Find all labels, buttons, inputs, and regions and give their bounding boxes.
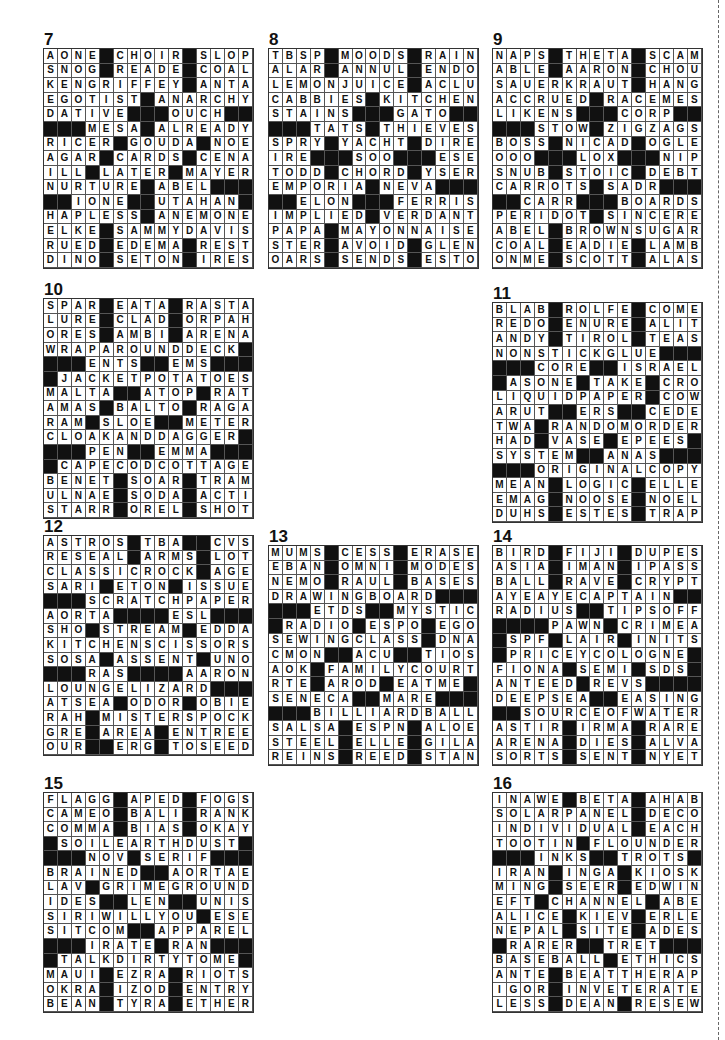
letter-cell: O (674, 391, 688, 406)
black-square (394, 648, 408, 663)
letter-cell: R (549, 78, 563, 93)
letter-cell: T (128, 166, 142, 181)
black-square (211, 445, 225, 460)
black-square (183, 822, 197, 837)
letter-cell: A (521, 793, 535, 808)
letter-cell: S (114, 210, 128, 225)
letter-cell: S (688, 954, 702, 969)
letter-cell: P (58, 299, 72, 314)
black-square (100, 997, 114, 1012)
letter-cell: C (155, 460, 169, 475)
letter-cell: A (394, 590, 408, 605)
letter-cell: E (535, 107, 549, 122)
letter-cell: R (660, 195, 674, 210)
letter-cell: Y (239, 93, 253, 108)
letter-cell: E (239, 210, 253, 225)
letter-cell: A (521, 493, 535, 508)
letter-cell: R (283, 590, 297, 605)
letter-cell: Z (128, 968, 142, 983)
letter-cell: U (549, 604, 563, 619)
letter-cell: E (211, 151, 225, 166)
letter-cell: N (563, 137, 577, 152)
letter-cell: S (646, 49, 660, 64)
letter-cell: D (660, 663, 674, 678)
letter-cell: V (225, 536, 239, 551)
letter-cell: D (422, 137, 436, 152)
black-square (422, 634, 436, 649)
letter-cell: R (521, 648, 535, 663)
letter-cell: K (100, 372, 114, 387)
letter-cell: N (72, 49, 86, 64)
letter-cell: S (563, 107, 577, 122)
letter-cell: I (100, 93, 114, 108)
letter-cell: E (507, 210, 521, 225)
letter-cell: A (128, 122, 142, 137)
letter-cell: I (86, 107, 100, 122)
letter-cell: L (211, 551, 225, 566)
letter-cell: A (618, 180, 632, 195)
letter-cell: I (590, 910, 604, 925)
black-square (563, 736, 577, 751)
letter-cell: T (72, 638, 86, 653)
letter-cell: K (297, 663, 311, 678)
letter-cell: A (422, 721, 436, 736)
letter-cell: R (72, 609, 86, 624)
letter-cell: T (86, 609, 100, 624)
letter-cell: S (535, 507, 549, 522)
letter-cell: O (521, 151, 535, 166)
letter-cell: R (141, 954, 155, 969)
black-square (618, 575, 632, 590)
letter-cell: D (493, 507, 507, 522)
letter-cell: P (183, 594, 197, 609)
black-square (86, 416, 100, 431)
letter-cell: N (408, 224, 422, 239)
letter-cell: K (380, 93, 394, 108)
black-square (674, 107, 688, 122)
letter-cell: S (114, 122, 128, 137)
letter-cell: E (688, 210, 702, 225)
black-square (493, 361, 507, 376)
black-square (618, 881, 632, 896)
letter-cell: G (86, 78, 100, 93)
black-square (183, 489, 197, 504)
letter-cell: R (141, 565, 155, 580)
black-square (632, 793, 646, 808)
black-square (577, 107, 591, 122)
letter-cell: R (283, 151, 297, 166)
letter-cell: L (493, 997, 507, 1012)
letter-cell: R (141, 151, 155, 166)
letter-cell: N (44, 180, 58, 195)
letter-cell: H (197, 195, 211, 210)
letter-cell: D (155, 314, 169, 329)
letter-cell: S (44, 624, 58, 639)
letter-cell: S (169, 822, 183, 837)
puzzle-number: 9 (493, 32, 502, 48)
letter-cell: R (590, 64, 604, 79)
letter-cell: S (493, 78, 507, 93)
letter-cell: D (577, 822, 591, 837)
letter-cell: A (577, 634, 591, 649)
letter-cell: O (366, 166, 380, 181)
letter-cell: D (141, 697, 155, 712)
letter-cell: A (464, 736, 478, 751)
letter-cell: A (339, 663, 353, 678)
letter-cell: C (86, 372, 100, 387)
letter-cell: B (507, 224, 521, 239)
letter-cell: K (44, 638, 58, 653)
letter-cell: S (128, 474, 142, 489)
letter-cell: E (225, 416, 239, 431)
letter-cell: E (225, 954, 239, 969)
letter-cell: N (394, 721, 408, 736)
letter-cell: L (535, 575, 549, 590)
letter-cell: D (169, 343, 183, 358)
letter-cell: T (632, 954, 646, 969)
letter-cell: I (535, 822, 549, 837)
letter-cell: O (283, 166, 297, 181)
letter-cell: M (72, 822, 86, 837)
letter-cell: I (563, 983, 577, 998)
letter-cell: E (128, 726, 142, 741)
letter-cell: N (507, 968, 521, 983)
black-square (86, 624, 100, 639)
letter-cell: R (549, 721, 563, 736)
letter-cell: L (660, 253, 674, 268)
